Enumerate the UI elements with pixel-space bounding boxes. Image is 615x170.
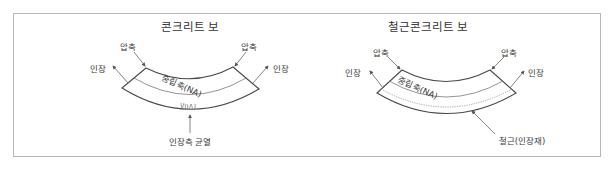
compression-right-arrow bbox=[235, 52, 246, 66]
compression-right-label: 압축 bbox=[501, 48, 517, 58]
compression-left-label: 압축 bbox=[373, 48, 389, 58]
tension-left-arrow bbox=[113, 66, 128, 83]
plain-concrete-title: 콘크리트 보 bbox=[161, 20, 220, 34]
tension-left-label: 인장 bbox=[345, 68, 361, 78]
compression-right-arrow bbox=[492, 57, 504, 69]
reinforced-concrete-beam-diagram: 철근콘크리트 보 압축 압축 인장 인장 중립축(NA) 철근(인장재) bbox=[345, 20, 545, 146]
compression-left-arrow bbox=[134, 52, 145, 66]
tension-right-arrow bbox=[253, 66, 268, 83]
rebar-label: 철근(인장재) bbox=[499, 136, 546, 146]
tension-crack-label: 인장측 균열 bbox=[169, 137, 212, 147]
neutral-axis-label: 중립축(NA) bbox=[160, 73, 203, 100]
tension-right-label: 인장 bbox=[273, 64, 289, 74]
beam-outline bbox=[377, 70, 516, 114]
compression-left-arrow bbox=[388, 57, 400, 69]
tension-left-arrow bbox=[370, 71, 383, 88]
rebar-callout-arrow bbox=[472, 111, 495, 134]
tension-right-arrow bbox=[510, 71, 524, 88]
tension-right-label: 인장 bbox=[528, 68, 544, 78]
tension-left-label: 인장 bbox=[90, 64, 106, 74]
reinforced-concrete-title: 철근콘크리트 보 bbox=[388, 20, 469, 34]
plain-concrete-beam-diagram: 콘크리트 보 압축 압축 인장 인장 중립축(NA) 인장측 균열 bbox=[90, 20, 289, 147]
compression-right-label: 압축 bbox=[241, 42, 257, 52]
beam-diagrams: 콘크리트 보 압축 압축 인장 인장 중립축(NA) 인장측 균열 철근콘크리트… bbox=[0, 0, 615, 170]
compression-left-label: 압축 bbox=[120, 42, 136, 52]
